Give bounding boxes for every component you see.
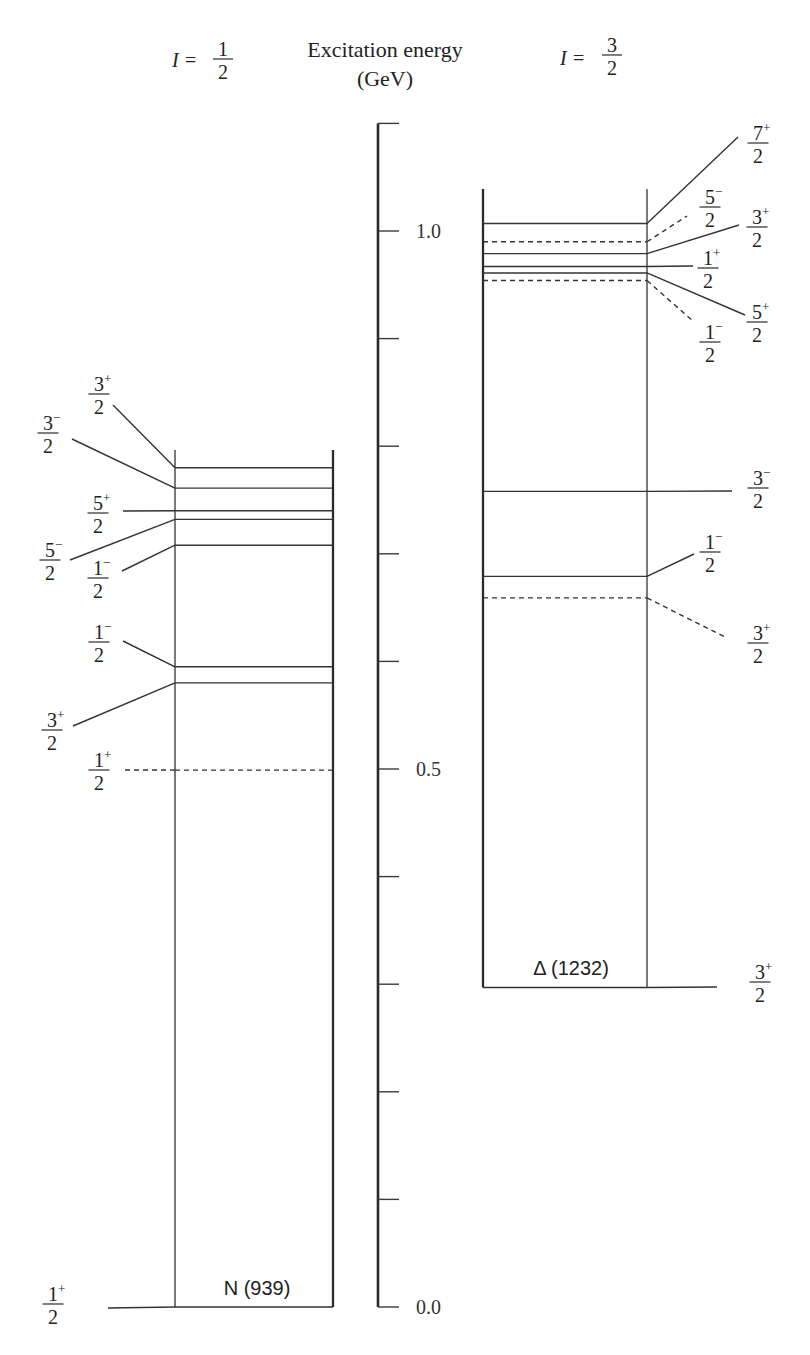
spin-parity-label: 1+2: [698, 245, 721, 293]
spin-parity-label: 1+2: [89, 747, 112, 795]
spin-numerator: 1: [93, 557, 103, 579]
spin-parity-label: 3−2: [38, 410, 61, 458]
spin-parity-label: 5+2: [747, 299, 770, 347]
isospin-right-heading: I = 3 2: [559, 34, 622, 79]
parity-superscript: +: [104, 371, 111, 386]
parity-superscript: +: [763, 120, 770, 135]
spin-denominator: 2: [43, 435, 53, 457]
parity-superscript: +: [762, 299, 769, 314]
spin-denominator: 2: [705, 344, 715, 366]
parity-superscript: −: [715, 529, 722, 544]
axis-tick-label: 0.5: [416, 758, 441, 780]
spin-parity-label: 5+2: [88, 490, 111, 538]
parity-superscript: +: [765, 959, 772, 974]
spin-numerator: 3: [755, 961, 765, 983]
isospin-left-heading: I = 1 2: [171, 38, 233, 83]
leader-line: [647, 137, 738, 223]
spin-parity-label: 1−2: [700, 529, 723, 577]
parity-superscript: −: [53, 410, 60, 425]
leader-line: [647, 216, 687, 242]
equals-sign: =: [573, 47, 584, 69]
spin-parity-label: 5−2: [700, 184, 723, 232]
parity-superscript: −: [763, 465, 770, 480]
spin-denominator: 2: [93, 515, 103, 537]
spin-denominator: 2: [94, 396, 104, 418]
parity-superscript: −: [103, 555, 110, 570]
equals-sign: =: [185, 49, 196, 71]
parity-superscript: +: [57, 707, 64, 722]
leader-line: [647, 280, 694, 322]
leader-line: [647, 266, 693, 267]
leader-line: [72, 439, 175, 488]
parity-superscript: +: [103, 490, 110, 505]
spin-numerator: 3: [47, 709, 57, 731]
spin-numerator: 5: [45, 539, 55, 561]
leader-line: [123, 641, 175, 667]
spin-parity-label: 1−2: [89, 619, 112, 667]
spin-parity-label: 3−2: [748, 465, 771, 513]
isospin-denominator: 2: [607, 57, 617, 79]
isospin-numerator: 3: [607, 34, 617, 56]
spin-numerator: 3: [753, 467, 763, 489]
header: I = 1 2 Excitation energy (GeV) I = 3 2: [171, 34, 622, 91]
spin-denominator: 2: [755, 984, 765, 1006]
axis-tick-label: 1.0: [416, 220, 441, 242]
spin-parity-label: 3+2: [748, 620, 771, 668]
spin-parity-label: 1−2: [700, 319, 723, 367]
spin-denominator: 2: [753, 645, 763, 667]
spin-denominator: 2: [45, 562, 55, 584]
axis-unit: (GeV): [357, 66, 413, 91]
parity-superscript: +: [104, 747, 111, 762]
spin-denominator: 2: [703, 270, 713, 292]
spin-numerator: 1: [94, 749, 104, 771]
isospin-symbol: I: [171, 49, 180, 71]
leader-line: [647, 225, 739, 254]
parity-superscript: +: [713, 245, 720, 260]
isospin-denominator: 2: [218, 61, 228, 83]
axis-tick-label: 0.0: [416, 1296, 441, 1318]
isospin-symbol: I: [559, 47, 568, 69]
delta-multiplet: 3+23+21−23−21−25+21+23+25−27+2Δ (1232): [483, 120, 772, 1007]
leader-line: [647, 598, 727, 638]
spin-numerator: 3: [43, 412, 53, 434]
leader-line: [113, 405, 175, 468]
spin-denominator: 2: [753, 490, 763, 512]
spin-numerator: 1: [705, 531, 715, 553]
parity-superscript: +: [58, 1281, 65, 1296]
parity-superscript: +: [763, 620, 770, 635]
spin-denominator: 2: [94, 644, 104, 666]
parity-superscript: −: [715, 184, 722, 199]
spin-parity-label: 1+2: [43, 1281, 66, 1329]
nucleon-multiplet: 1+21+23+21−21−25−25+23−23+2N (939): [38, 371, 334, 1329]
energy-axis: 1.00.50.0: [378, 123, 441, 1318]
leader-line: [70, 519, 175, 560]
axis-title: Excitation energy: [307, 37, 462, 62]
spin-parity-label: 7+2: [748, 120, 771, 168]
leader-line: [108, 1307, 175, 1308]
spin-denominator: 2: [752, 324, 762, 346]
spin-parity-label: 3+2: [89, 371, 112, 419]
spin-parity-label: 3+2: [747, 204, 770, 252]
leader-line: [122, 545, 175, 571]
spin-denominator: 2: [47, 732, 57, 754]
spin-parity-label: 1−2: [88, 555, 111, 603]
multiplet-name: Δ (1232): [533, 957, 609, 979]
spin-numerator: 3: [753, 622, 763, 644]
isospin-numerator: 1: [218, 38, 228, 60]
spin-numerator: 5: [705, 186, 715, 208]
leader-line: [647, 554, 694, 576]
spin-denominator: 2: [752, 229, 762, 251]
spin-denominator: 2: [93, 580, 103, 602]
spin-parity-label: 5−2: [40, 537, 63, 585]
spin-numerator: 5: [93, 492, 103, 514]
spin-numerator: 3: [94, 373, 104, 395]
spin-parity-label: 3+2: [42, 707, 65, 755]
spin-denominator: 2: [48, 1306, 58, 1328]
parity-superscript: −: [715, 319, 722, 334]
spin-parity-label: 3+2: [750, 959, 773, 1007]
spin-numerator: 1: [94, 621, 104, 643]
multiplet-name: N (939): [224, 1277, 291, 1299]
parity-superscript: −: [104, 619, 111, 634]
spin-denominator: 2: [753, 145, 763, 167]
spin-numerator: 5: [752, 301, 762, 323]
